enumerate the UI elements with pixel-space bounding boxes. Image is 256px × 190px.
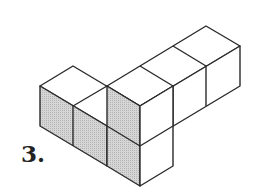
problem-number-label: 3. (21, 140, 45, 167)
